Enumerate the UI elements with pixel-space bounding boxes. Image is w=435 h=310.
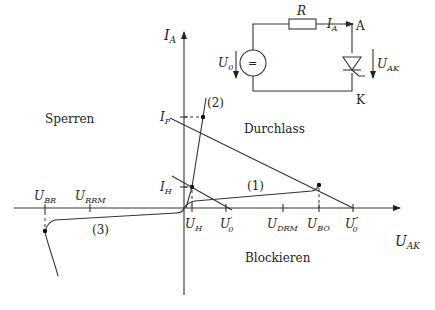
y-tick-ih: IH [159, 180, 173, 196]
region-blockieren: Blockieren [245, 251, 311, 265]
thyristor-characteristic-diagram: IA UAK Sperren Durchlass Blockieren IP I… [0, 0, 435, 310]
x-axis-label: UAK [395, 233, 421, 251]
load-line-lower [172, 176, 232, 210]
point-ubr [43, 229, 47, 233]
point-ubo [317, 183, 321, 187]
curve-2-on-state [186, 98, 206, 208]
resistor-symbol [289, 19, 316, 29]
curve-label-3: (3) [92, 223, 109, 237]
circuit-inset: = R IA A K U0 UAK [218, 4, 400, 107]
uak-label: UAK [377, 57, 400, 73]
anode-label: A [355, 19, 365, 33]
curve-label-2: (2) [207, 96, 224, 110]
x-tick-u0-double-prime: U″0 [345, 216, 359, 234]
thyristor-symbol [343, 57, 361, 70]
source-voltage-label: U0 [218, 56, 233, 72]
x-tick-ubo: UBO [307, 217, 330, 233]
x-tick-urrm: URRM [75, 189, 106, 205]
x-tick-uh: UH [185, 217, 203, 233]
y-tick-ip: IP [159, 110, 171, 126]
current-label: IA [326, 17, 338, 33]
cathode-label: K [356, 93, 366, 107]
curve-label-1: (1) [247, 179, 264, 193]
region-durchlass: Durchlass [244, 122, 305, 136]
x-tick-ubr: UBR [34, 189, 56, 205]
resistor-label: R [296, 4, 306, 18]
region-sperren: Sperren [45, 112, 95, 126]
x-tick-u0-prime: U′0 [220, 216, 233, 234]
curve-3-reverse [45, 208, 184, 276]
y-axis-label: IA [163, 27, 177, 45]
source-symbol: = [248, 57, 257, 70]
x-tick-udrm: UDRM [267, 217, 299, 233]
